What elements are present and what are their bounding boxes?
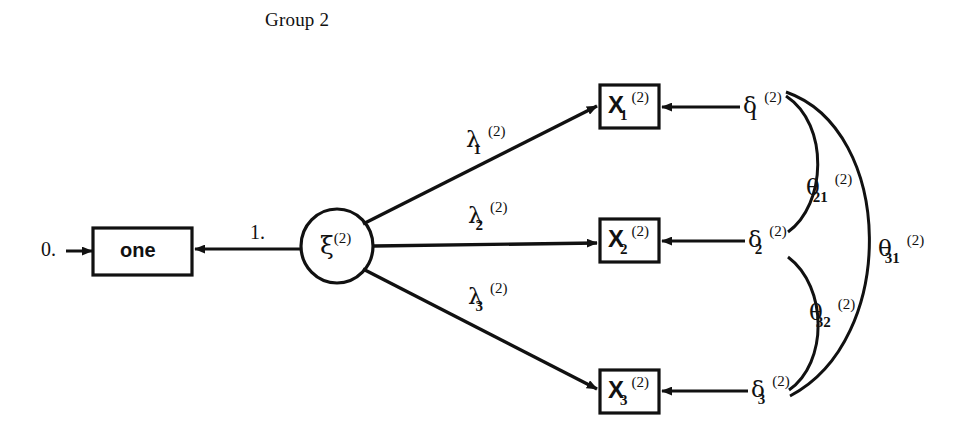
fixed-loading-label: 1. (250, 222, 265, 242)
indicator-label-3: X3(2) (608, 378, 649, 402)
indicator-superscript-3: (2) (632, 374, 650, 390)
loading-subscript-2: 2 (476, 217, 484, 233)
indicator-superscript-2: (2) (632, 223, 650, 239)
error-subscript-2: 2 (755, 241, 763, 257)
covariance-subscript-21: 21 (813, 189, 828, 205)
covariance-superscript-32: (2) (838, 296, 856, 312)
error-subscript-3: 3 (758, 391, 766, 407)
loading-superscript-1: (2) (488, 123, 506, 139)
loading-label-3: λ3(2) (468, 285, 508, 308)
covariance-subscript-32: 32 (816, 314, 831, 330)
loading-superscript-2: (2) (490, 199, 508, 215)
path-diagram-canvas: Group 2 0. 1. one ξ(2) X1(2) X2(2) X3(2)… (0, 0, 956, 442)
covariance-label-32: θ32(2) (809, 301, 855, 324)
indicator-subscript-2: 2 (620, 241, 628, 257)
loading-subscript-1: 1 (474, 141, 482, 157)
mean-value-label: 0. (41, 239, 56, 259)
error-subscript-1: 1 (750, 107, 758, 123)
loading-superscript-3: (2) (490, 280, 508, 296)
error-superscript-2: (2) (769, 223, 787, 239)
error-superscript-1: (2) (764, 89, 782, 105)
covariance-superscript-21: (2) (835, 171, 853, 187)
indicator-subscript-1: 1 (620, 107, 628, 123)
indicator-subscript-3: 3 (620, 392, 628, 408)
covariance-superscript-31: (2) (907, 232, 925, 248)
indicator-superscript-1: (2) (632, 89, 650, 105)
indicator-label-1: X1(2) (608, 93, 649, 117)
error-label-2: δ2(2) (748, 228, 787, 251)
covariance-label-21: θ21(2) (806, 176, 852, 199)
loading-label-2: λ2(2) (468, 204, 508, 227)
latent-base: ξ (320, 231, 334, 260)
covariance-arc-31 (786, 92, 869, 396)
loading-label-1: λ1(2) (466, 128, 506, 151)
latent-superscript: (2) (334, 230, 352, 246)
error-label-1: δ1(2) (743, 94, 782, 117)
latent-variable-label: ξ(2) (320, 233, 351, 258)
constant-box-label: one (120, 240, 156, 260)
indicator-label-2: X2(2) (608, 227, 649, 251)
loading-arrow-2 (374, 243, 597, 246)
error-superscript-3: (2) (772, 373, 790, 389)
covariance-arc-21 (786, 96, 818, 232)
covariance-label-31: θ31(2) (878, 237, 924, 260)
loading-subscript-3: 3 (476, 298, 484, 314)
covariance-subscript-31: 31 (885, 250, 900, 266)
error-label-3: δ3(2) (751, 378, 790, 401)
page-title: Group 2 (265, 10, 329, 29)
